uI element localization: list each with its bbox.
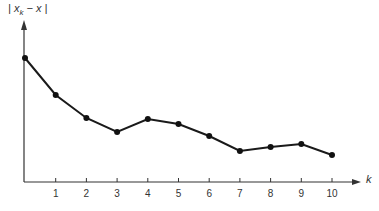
- data-point: [237, 148, 243, 154]
- data-point: [145, 116, 151, 122]
- x-tick-label: 6: [206, 188, 212, 199]
- data-point: [206, 133, 212, 139]
- x-tick-label: 10: [326, 188, 338, 199]
- x-ticks: 12345678910: [53, 178, 338, 199]
- data-point: [329, 152, 335, 158]
- data-point: [176, 121, 182, 127]
- axes: [21, 20, 361, 185]
- x-tick-label: 3: [114, 188, 120, 199]
- data-point: [268, 144, 274, 150]
- data-point: [114, 129, 120, 135]
- x-tick-label: 8: [268, 188, 274, 199]
- data-point: [298, 141, 304, 147]
- data-point: [83, 115, 89, 121]
- x-tick-label: 5: [176, 188, 182, 199]
- x-tick-label: 7: [237, 188, 243, 199]
- line-chart: 12345678910: [0, 0, 379, 211]
- x-tick-label: 1: [53, 188, 59, 199]
- x-axis-arrow-icon: [352, 179, 361, 185]
- x-tick-label: 2: [84, 188, 90, 199]
- x-tick-label: 9: [299, 188, 305, 199]
- data-series: [22, 55, 335, 158]
- x-tick-label: 4: [145, 188, 151, 199]
- y-axis-arrow-icon: [21, 20, 27, 30]
- data-point: [53, 92, 59, 98]
- data-point: [22, 55, 28, 61]
- series-line: [25, 58, 332, 155]
